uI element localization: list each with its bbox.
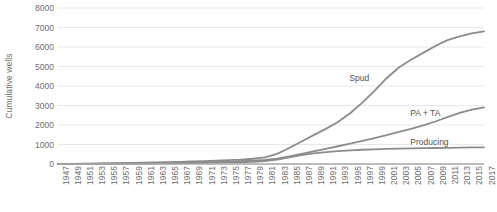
x-tick-label: 1957 (122, 166, 131, 185)
x-tick-label: 1951 (86, 166, 95, 185)
y-tick-label: 0 (49, 160, 54, 169)
x-tick-label: 1983 (281, 166, 290, 185)
y-axis-title: Cumulative wells (0, 0, 18, 172)
x-tick-label: 2011 (451, 166, 460, 184)
y-tick-label: 4000 (35, 82, 54, 91)
y-axis-title-text: Cumulative wells (4, 53, 14, 118)
y-tick-label: 6000 (35, 43, 54, 52)
x-tick-label: 1977 (244, 166, 253, 185)
plot-area: Spud PA + TA Producing (58, 8, 484, 164)
x-tick-label: 1963 (159, 166, 168, 185)
x-tick-label: 1955 (110, 166, 119, 185)
x-tick-label: 2009 (439, 166, 448, 185)
x-tick-label: 1993 (341, 166, 350, 185)
x-tick-label: 1975 (232, 166, 241, 185)
x-tick-label: 1967 (183, 166, 192, 185)
y-tick-label: 2000 (35, 121, 54, 130)
x-tick-label: 2005 (414, 166, 423, 185)
series-label-producing: Producing (409, 138, 449, 147)
x-tick-label: 1981 (268, 166, 277, 185)
x-tick-label: 2001 (390, 166, 399, 185)
x-tick-label: 2003 (402, 166, 411, 185)
x-tick-label: 2017 (488, 166, 497, 185)
x-tick-label: 2007 (427, 166, 436, 185)
x-tick-label: 1979 (256, 166, 265, 185)
x-tick-label: 1959 (135, 166, 144, 185)
x-tick-label: 1949 (74, 166, 83, 185)
x-axis-tick-labels: 1947194919511953195519571959196119631965… (58, 166, 484, 212)
gridlines (58, 8, 484, 145)
x-tick-label: 1961 (147, 166, 156, 185)
y-tick-label: 1000 (35, 140, 54, 149)
x-tick-label: 1953 (98, 166, 107, 185)
x-tick-label: 1999 (378, 166, 387, 185)
x-tick-label: 1971 (208, 166, 217, 185)
y-tick-label: 8000 (35, 4, 54, 13)
x-tick-label: 1997 (366, 166, 375, 185)
x-tick-label: 1947 (62, 166, 71, 185)
x-tick-label: 2013 (463, 166, 472, 185)
x-tick-label: 1973 (220, 166, 229, 185)
x-tick-label: 1965 (171, 166, 180, 185)
y-tick-label: 7000 (35, 23, 54, 32)
y-axis-tick-labels: 010002000300040005000600070008000 (18, 0, 58, 172)
x-tick-label: 1987 (305, 166, 314, 185)
x-tick-label: 1985 (293, 166, 302, 185)
x-tick-label: 1969 (195, 166, 204, 185)
x-tick-label: 2015 (475, 166, 484, 185)
x-tick-label: 1989 (317, 166, 326, 185)
y-tick-label: 5000 (35, 62, 54, 71)
y-tick-label: 3000 (35, 101, 54, 110)
x-tick-label: 1995 (354, 166, 363, 185)
series-label-pa-ta: PA + TA (409, 109, 441, 118)
x-tick-label: 1991 (329, 166, 338, 185)
series-label-spud: Spud (348, 74, 370, 83)
